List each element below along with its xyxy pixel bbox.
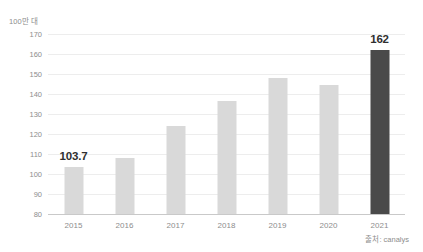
y-axis-tick-label: 130 [29,110,42,119]
bar-slot: 2016 [99,34,150,214]
y-axis-tick-label: 100 [29,170,42,179]
bar-highlighted[interactable] [370,50,389,214]
bar-slot: 2020 [303,34,354,214]
y-axis-tick-label: 80 [34,210,42,219]
bar[interactable] [115,158,134,214]
plot-area: 1701601501401301201101009080 103.7201520… [48,34,405,214]
y-axis-tick-label: 150 [29,70,42,79]
source-attribution: 출처: canalys [365,233,409,244]
x-axis-tick-label: 2015 [65,221,83,230]
x-axis-tick-label: 2017 [167,221,185,230]
bar-slot: 1622021 [354,34,405,214]
bar-slot: 103.72015 [48,34,99,214]
bar-slot: 2018 [201,34,252,214]
bar-slot: 2019 [252,34,303,214]
bar-value-label: 162 [370,33,389,45]
bar-value-label: 103.7 [60,150,88,162]
axis-baseline [48,214,405,215]
y-axis-tick-label: 160 [29,50,42,59]
y-axis-tick-label: 140 [29,90,42,99]
x-axis-tick-label: 2016 [116,221,134,230]
x-axis-tick-label: 2021 [371,221,389,230]
y-axis-tick-label: 120 [29,130,42,139]
bar[interactable] [166,126,185,214]
bar[interactable] [319,85,338,214]
bar[interactable] [64,167,83,214]
x-axis-tick-label: 2018 [218,221,236,230]
bars-group: 103.72015201620172018201920201622021 [48,34,405,214]
bar[interactable] [217,101,236,214]
bar-chart-figure: 100만 대 1701601501401301201101009080 103.… [0,0,423,252]
y-axis-unit-label: 100만 대 [9,15,38,26]
y-axis-tick-label: 90 [34,190,42,199]
bar[interactable] [268,78,287,214]
x-axis-tick-label: 2019 [269,221,287,230]
bar-slot: 2017 [150,34,201,214]
x-axis-tick-label: 2020 [320,221,338,230]
y-axis-tick-label: 110 [30,150,42,159]
y-axis-tick-label: 170 [29,30,42,39]
